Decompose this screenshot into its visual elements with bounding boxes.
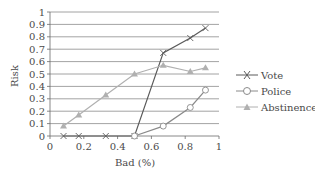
y-tick-label: 0.5 xyxy=(29,69,45,80)
legend: Vote Police Abstinence xyxy=(236,67,315,115)
series-lines xyxy=(60,25,209,139)
legend-label: Abstinence xyxy=(261,102,315,113)
data-point xyxy=(160,123,166,129)
legend-item-vote: Vote xyxy=(236,67,315,83)
series-vote xyxy=(61,25,209,139)
series-abstinence xyxy=(60,62,209,129)
y-axis-ticks: 00.10.20.30.40.50.60.70.80.91 xyxy=(29,7,50,142)
y-axis-label: Risk xyxy=(9,64,20,87)
y-tick-label: 0.2 xyxy=(29,106,45,117)
data-point xyxy=(102,92,109,98)
x-tick-label: 0.2 xyxy=(76,141,92,152)
x-tick-label: 0.6 xyxy=(143,141,159,152)
y-tick-label: 0.7 xyxy=(29,44,45,55)
y-tick-label: 0.1 xyxy=(29,118,45,129)
x-tick-label: 0 xyxy=(47,141,53,152)
legend-item-abstinence: Abstinence xyxy=(236,99,315,115)
data-point xyxy=(187,104,193,110)
data-point xyxy=(160,62,167,68)
legend-label: Vote xyxy=(261,70,283,81)
y-tick-label: 0.9 xyxy=(29,19,45,30)
data-point xyxy=(132,133,138,139)
y-tick-label: 1 xyxy=(39,7,45,18)
y-tick-label: 0.3 xyxy=(29,93,45,104)
data-point xyxy=(202,64,209,70)
y-tick-label: 0.4 xyxy=(29,81,45,92)
x-axis-label: Bad (%) xyxy=(115,157,155,168)
circle-marker-icon xyxy=(236,86,258,96)
x-tick-label: 0.4 xyxy=(110,141,126,152)
triangle-marker-icon xyxy=(236,102,258,112)
y-tick-label: 0.6 xyxy=(29,56,45,67)
data-point xyxy=(75,111,82,117)
legend-item-police: Police xyxy=(236,83,315,99)
x-marker-icon xyxy=(236,70,258,80)
x-tick-label: 0.8 xyxy=(177,141,193,152)
y-tick-label: 0 xyxy=(39,131,45,142)
legend-label: Police xyxy=(261,86,291,97)
data-point xyxy=(202,87,208,93)
y-tick-label: 0.8 xyxy=(29,31,45,42)
x-tick-label: 1 xyxy=(216,141,222,152)
